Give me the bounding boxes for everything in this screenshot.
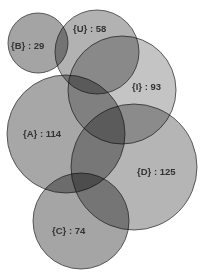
venn-diagram: {B} : 29{U} : 58{I} : 93{A} : 114{D} : 1… xyxy=(0,0,203,279)
set-label-a: {A} : 114 xyxy=(23,128,62,139)
set-label-c: {C} : 74 xyxy=(52,225,86,236)
set-label-d: {D} : 125 xyxy=(137,166,176,177)
set-label-u: {U} : 58 xyxy=(73,23,106,34)
set-label-i: {I} : 93 xyxy=(132,81,161,92)
set-circle-c xyxy=(33,173,129,269)
set-label-b: {B} : 29 xyxy=(11,40,44,51)
